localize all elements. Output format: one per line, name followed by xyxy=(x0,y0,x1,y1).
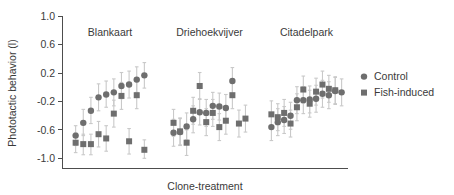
data-point-control xyxy=(95,94,101,100)
data-point-fish-induced xyxy=(88,141,94,147)
data-point-control xyxy=(326,92,332,98)
x-axis-title: Clone-treatment xyxy=(167,180,242,192)
data-point-fish-induced xyxy=(242,116,248,122)
data-point-control xyxy=(111,89,117,95)
data-point-control xyxy=(203,110,209,116)
data-point-fish-induced xyxy=(118,93,124,99)
data-point-control xyxy=(294,97,300,103)
y-tick-label: 1.0 xyxy=(40,10,55,22)
data-point-fish-induced xyxy=(288,121,294,127)
y-tick-label: 0.6 xyxy=(40,38,55,50)
data-point-control xyxy=(134,76,140,82)
data-point-fish-induced xyxy=(229,92,235,98)
data-point-fish-induced xyxy=(103,135,109,141)
data-point-control xyxy=(103,91,109,97)
data-point-control xyxy=(196,109,202,115)
data-point-fish-induced xyxy=(326,86,332,92)
data-point-control xyxy=(281,117,287,123)
data-point-fish-induced xyxy=(332,87,338,93)
data-point-control xyxy=(223,105,229,111)
data-point-fish-induced xyxy=(294,104,300,110)
data-point-fish-induced xyxy=(319,82,325,88)
y-axis-ticks xyxy=(58,17,63,159)
legend-marker-circle xyxy=(361,73,367,79)
data-point-fish-induced xyxy=(210,110,216,116)
data-point-control xyxy=(338,89,344,95)
data-point-control xyxy=(183,123,189,129)
data-point-control xyxy=(313,96,319,102)
data-point-fish-induced xyxy=(236,121,242,127)
data-point-control xyxy=(229,78,235,84)
y-tick-label: -0.6 xyxy=(37,124,55,136)
legend-label-fish-induced: Fish-induced xyxy=(374,86,434,98)
data-point-control xyxy=(141,72,147,78)
data-point-control xyxy=(287,113,293,119)
panel-label-blankaart: Blankaart xyxy=(88,26,132,38)
data-point-control xyxy=(88,108,94,114)
panel-labels: BlankaartDriehoekvijverCitadelpark xyxy=(88,26,334,38)
data-point-fish-induced xyxy=(203,119,209,125)
legend-label-control: Control xyxy=(374,70,408,82)
data-point-fish-induced xyxy=(268,111,274,117)
data-point-control xyxy=(170,130,176,136)
data-point-control xyxy=(216,103,222,109)
data-point-fish-induced xyxy=(300,87,306,93)
data-point-control xyxy=(80,120,86,126)
y-tick-label: -0.2 xyxy=(37,95,55,107)
data-point-fish-induced xyxy=(73,140,79,146)
data-point-fish-induced xyxy=(190,108,196,114)
data-point-fish-induced xyxy=(281,110,287,116)
legend: ControlFish-induced xyxy=(361,70,434,98)
legend-marker-square xyxy=(361,90,367,96)
y-axis-title: Phototactic behavior (l) xyxy=(6,39,18,146)
y-tick-label: -1.0 xyxy=(37,152,55,164)
data-point-control xyxy=(126,81,132,87)
y-axis: 1.00.60.2-0.2-0.6-1.0 xyxy=(37,10,63,168)
data-point-control xyxy=(300,97,306,103)
data-point-fish-induced xyxy=(96,131,102,137)
data-point-fish-induced xyxy=(126,138,132,144)
data-point-fish-induced xyxy=(177,128,183,134)
chart-figure: 1.00.60.2-0.2-0.6-1.0 Phototactic behavi… xyxy=(0,0,454,195)
data-point-fish-induced xyxy=(197,83,203,89)
data-point-fish-induced xyxy=(307,101,313,107)
data-point-fish-induced xyxy=(80,141,86,147)
data-point-fish-induced xyxy=(134,92,140,98)
data-point-control xyxy=(72,132,78,138)
y-axis-tick-labels: 1.00.60.2-0.2-0.6-1.0 xyxy=(37,10,55,164)
data-point-fish-induced xyxy=(184,140,190,146)
data-point-control xyxy=(319,91,325,97)
data-point-control xyxy=(210,103,216,109)
data-point-fish-induced xyxy=(216,124,222,130)
data-point-control xyxy=(190,116,196,122)
panel-label-citadelpark: Citadelpark xyxy=(280,26,334,38)
error-bars-layer xyxy=(74,63,344,159)
data-point-control xyxy=(118,83,124,89)
data-point-fish-induced xyxy=(171,120,177,126)
panel-label-driehoekvijver: Driehoekvijver xyxy=(176,26,243,38)
data-point-fish-induced xyxy=(223,118,229,124)
data-point-fish-induced xyxy=(111,111,117,117)
phototactic-behavior-scatter-plot: 1.00.60.2-0.2-0.6-1.0 Phototactic behavi… xyxy=(0,0,454,195)
y-tick-label: 0.2 xyxy=(40,67,55,79)
data-point-fish-induced xyxy=(313,89,319,95)
data-point-control xyxy=(268,124,274,130)
data-point-fish-induced xyxy=(275,114,281,120)
data-point-fish-induced xyxy=(141,147,147,153)
